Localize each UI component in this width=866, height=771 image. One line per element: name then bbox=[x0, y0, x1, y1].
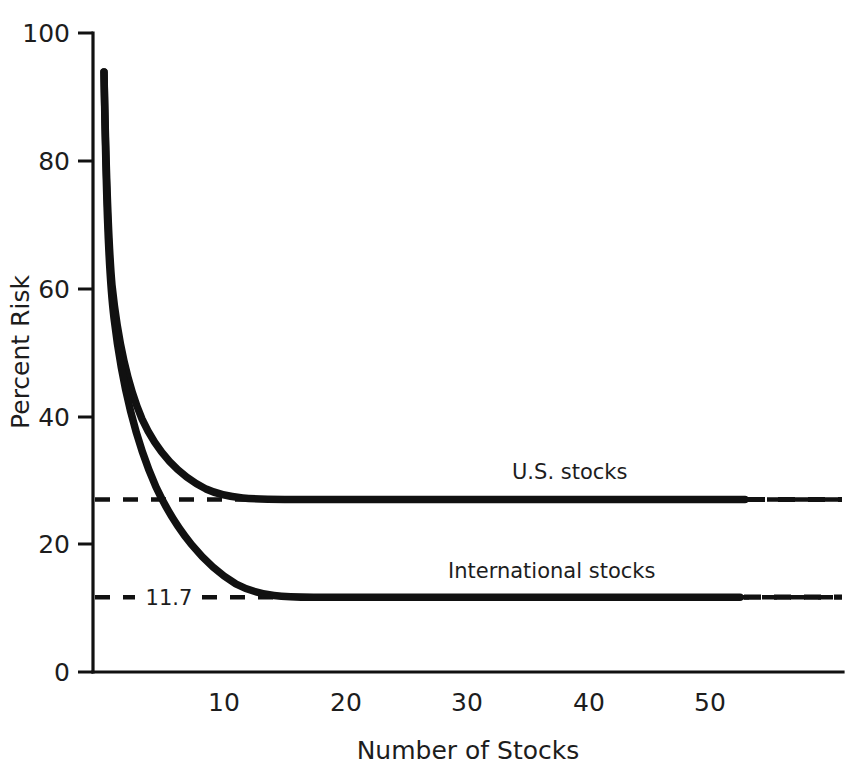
series-curves bbox=[104, 72, 842, 597]
y-tick-label-80: 80 bbox=[38, 147, 70, 176]
international-value-annotation: 11.7 bbox=[146, 586, 193, 610]
x-tick-label-50: 50 bbox=[694, 688, 726, 717]
y-tick-label-100: 100 bbox=[22, 19, 70, 48]
y-tick-label-60: 60 bbox=[38, 275, 70, 304]
series-label-international-stocks: International stocks bbox=[448, 559, 655, 583]
y-tick-marks bbox=[78, 33, 93, 672]
series-curve-us-stocks bbox=[104, 72, 745, 500]
series-label-us-stocks: U.S. stocks bbox=[512, 460, 627, 484]
y-axis-title: Percent Risk bbox=[6, 275, 35, 429]
y-tick-label-0: 0 bbox=[54, 658, 70, 687]
risk-diversification-chart: 100 80 60 40 20 0 10 20 30 40 50 Number … bbox=[0, 0, 866, 771]
x-tick-label-40: 40 bbox=[573, 688, 605, 717]
x-tick-label-10: 10 bbox=[208, 688, 240, 717]
series-curve-international-stocks bbox=[104, 72, 740, 597]
y-tick-label-40: 40 bbox=[38, 403, 70, 432]
x-tick-label-30: 30 bbox=[451, 688, 483, 717]
x-tick-labels: 10 20 30 40 50 bbox=[208, 688, 726, 717]
chart-canvas: 100 80 60 40 20 0 10 20 30 40 50 Number … bbox=[0, 0, 866, 771]
x-axis-title: Number of Stocks bbox=[357, 736, 580, 765]
x-tick-label-20: 20 bbox=[330, 688, 362, 717]
y-tick-label-20: 20 bbox=[38, 530, 70, 559]
